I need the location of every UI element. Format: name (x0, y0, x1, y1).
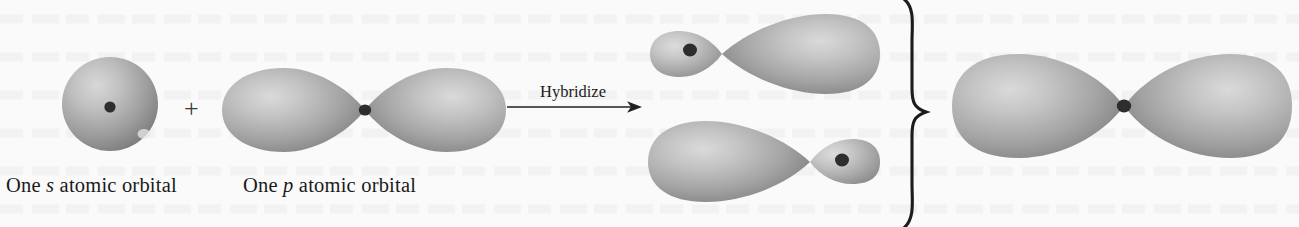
s-atomic-orbital (56, 52, 164, 156)
plus-sign: + (184, 96, 199, 122)
s-orbital-nucleus-dot (104, 101, 115, 112)
top-hybrid-nucleus-dot (683, 44, 697, 57)
s-orbital-label: One s atomic orbital (6, 175, 177, 196)
combined-orbital-left-lobe (952, 54, 1124, 158)
orbital-hybridization-figure: One s atomic orbital + One p atomic orbi… (0, 0, 1299, 227)
p-orbital-right-lobe (365, 68, 506, 152)
combined-orbital-right-lobe (1124, 54, 1292, 158)
sp-hybrid-orbital-bottom (644, 118, 884, 204)
p-orbital-label: One p atomic orbital (243, 175, 416, 196)
p-orbital-left-lobe (222, 68, 365, 152)
grouping-brace (898, 0, 936, 227)
p-atomic-orbital (218, 62, 510, 158)
bottom-hybrid-nucleus-dot (835, 154, 849, 167)
combined-orbital-nucleus-dot (1117, 100, 1131, 113)
top-hybrid-large-lobe (722, 14, 880, 94)
bottom-hybrid-large-lobe (648, 121, 810, 202)
sp-hybrid-orbital-top (646, 12, 884, 96)
p-orbital-label-italic: p (283, 174, 293, 196)
combined-sp-orbital-set (948, 48, 1294, 164)
hybridize-arrow (505, 98, 645, 118)
p-orbital-nucleus-dot (359, 104, 371, 115)
